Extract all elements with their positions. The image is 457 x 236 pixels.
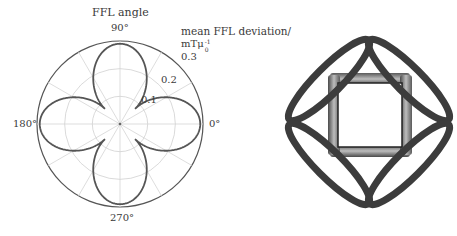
coil-arrangement-figure bbox=[0, 0, 457, 236]
inner-aperture bbox=[338, 83, 402, 147]
